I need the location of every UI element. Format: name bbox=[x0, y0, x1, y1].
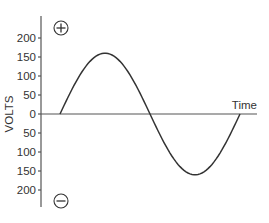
y-axis-ticks: 20015010050050100150200 bbox=[17, 32, 41, 196]
y-tick-label: 100 bbox=[17, 70, 36, 82]
y-tick-label: 50 bbox=[23, 89, 36, 101]
y-tick-label: 150 bbox=[17, 165, 36, 177]
y-tick-label: 150 bbox=[17, 51, 36, 63]
y-axis-title: VOLTS bbox=[3, 95, 15, 132]
sine-wave-chart: 20015010050050100150200 VOLTS Time bbox=[0, 0, 269, 223]
y-tick-label: 200 bbox=[17, 184, 36, 196]
chart-canvas: 20015010050050100150200 VOLTS Time bbox=[0, 0, 269, 223]
y-tick-label: 50 bbox=[23, 127, 36, 139]
x-axis-title: Time bbox=[232, 99, 257, 111]
minus-circle-icon bbox=[54, 194, 68, 208]
y-tick-label: 200 bbox=[17, 32, 36, 44]
plus-circle-icon bbox=[54, 21, 68, 35]
y-tick-label: 100 bbox=[17, 146, 36, 158]
y-tick-label: 0 bbox=[30, 108, 36, 120]
